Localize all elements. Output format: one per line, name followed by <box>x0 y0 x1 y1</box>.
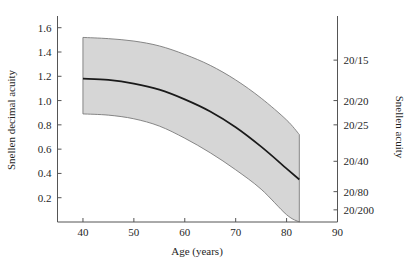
y-tick-label-right: 20/15 <box>344 54 370 66</box>
x-tick-label: 90 <box>332 226 344 238</box>
y-tick-label-left: 1.2 <box>38 70 52 82</box>
y-tick-label-right: 20/200 <box>344 204 375 216</box>
y-axis-right-title: Snellen acuity <box>394 96 406 159</box>
y-tick-label-right: 20/40 <box>344 155 370 167</box>
y-tick-label-left: 0.6 <box>38 143 52 155</box>
y-tick-label-left: 1.4 <box>38 46 52 58</box>
x-axis-ticks: 405060708090 <box>77 218 343 238</box>
y-axis-left-title: Snellen decimal acuity <box>5 69 17 170</box>
y-axis-right-ticks: 20/1520/2020/2520/4020/8020/200 <box>334 54 375 216</box>
y-tick-label-left: 1.6 <box>38 22 52 34</box>
x-tick-label: 50 <box>128 226 140 238</box>
y-tick-label-left: 1.0 <box>38 95 52 107</box>
y-tick-label-right: 20/25 <box>344 119 370 131</box>
y-tick-label-left: 0.2 <box>38 192 52 204</box>
y-tick-label-left: 0.4 <box>38 167 52 179</box>
confidence-band-shape <box>83 37 299 222</box>
x-tick-label: 80 <box>281 226 293 238</box>
acuity-vs-age-chart: 405060708090 0.20.40.60.81.01.21.41.6 20… <box>0 0 410 262</box>
x-axis-title: Age (years) <box>171 245 223 258</box>
x-tick-label: 70 <box>230 226 242 238</box>
confidence-band <box>83 37 299 222</box>
chart-figure: 405060708090 0.20.40.60.81.01.21.41.6 20… <box>0 0 410 262</box>
y-tick-label-right: 20/20 <box>344 95 370 107</box>
x-tick-label: 40 <box>77 226 89 238</box>
y-tick-label-left: 0.8 <box>38 119 52 131</box>
x-tick-label: 60 <box>179 226 191 238</box>
y-tick-label-right: 20/80 <box>344 186 370 198</box>
